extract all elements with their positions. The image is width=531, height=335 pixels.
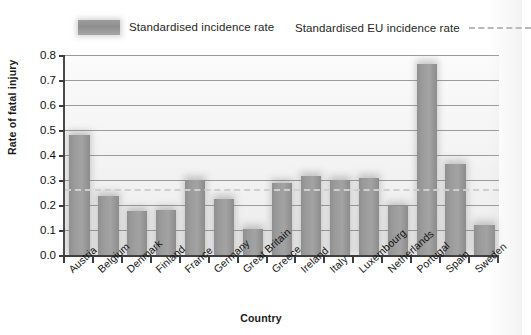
legend-label-incidence-rate: Standardised incidence rate <box>129 21 274 33</box>
y-axis-tick-label: 0.7 <box>40 74 56 86</box>
x-axis-tick <box>63 257 65 263</box>
chart-legend: Standardised incidence rate Standardised… <box>0 14 522 42</box>
x-axis-tick <box>352 257 354 263</box>
legend-bar-swatch <box>78 20 120 35</box>
y-axis-tick-label: 0.6 <box>40 99 56 111</box>
bar-series <box>65 55 499 255</box>
y-axis-tick-label: 0.2 <box>40 199 56 211</box>
legend-label-eu-incidence-rate: Standardised EU incidence rate <box>295 22 460 34</box>
x-axis-tick-label: Italy <box>327 253 350 275</box>
bar <box>417 64 437 255</box>
legend-dashed-line-swatch <box>469 27 531 29</box>
bar <box>185 180 205 255</box>
plot-area: 0.00.10.20.30.40.50.60.70.8 <box>63 55 499 257</box>
bar <box>330 180 350 255</box>
y-axis-tick-label: 0.5 <box>40 124 56 136</box>
y-axis-tick-label: 0.4 <box>40 149 56 161</box>
bar <box>445 164 465 255</box>
y-axis-title: Rate of fatal injury <box>6 59 18 155</box>
bar <box>69 135 89 255</box>
y-axis-tick-label: 0.1 <box>40 224 56 236</box>
y-axis-tick-label: 0.8 <box>40 49 56 61</box>
legend-item-incidence-rate: Standardised incidence rate <box>78 18 274 36</box>
legend-item-eu-incidence-rate: Standardised EU incidence rate <box>295 19 531 37</box>
eu-reference-line <box>65 189 499 191</box>
y-axis-tick-label: 0.0 <box>40 249 56 261</box>
y-axis-tick-label: 0.3 <box>40 174 56 186</box>
x-axis-title: Country <box>0 312 522 324</box>
